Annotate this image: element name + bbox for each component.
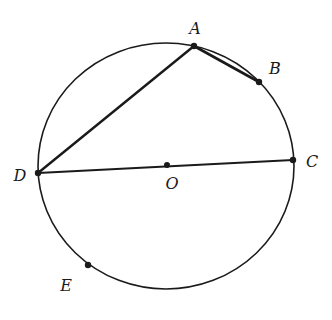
point-d (35, 170, 41, 176)
point-c (290, 157, 296, 163)
label-c: C (306, 152, 318, 171)
chord-ab (194, 46, 259, 82)
label-e: E (59, 276, 72, 295)
point-e (85, 262, 91, 268)
point-a (191, 43, 197, 49)
point-b (256, 79, 262, 85)
chord-da (38, 46, 194, 173)
circle-diagram: A B C D E O (0, 0, 332, 320)
point-o (164, 162, 170, 168)
label-a: A (187, 19, 201, 38)
label-d: D (13, 166, 27, 185)
label-b: B (268, 59, 281, 78)
label-o: O (165, 174, 178, 193)
